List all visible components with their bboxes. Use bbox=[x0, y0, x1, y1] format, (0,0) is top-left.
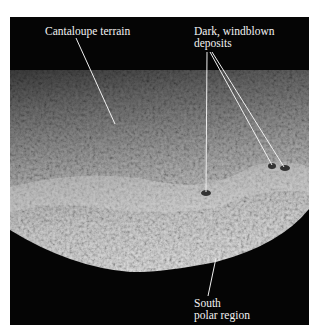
figure-frame: Cantaloupe terrain Dark, windblown depos… bbox=[10, 17, 309, 325]
moon-surface bbox=[10, 70, 309, 280]
label-line: polar region bbox=[194, 309, 250, 321]
label-cantaloupe-terrain: Cantaloupe terrain bbox=[45, 25, 130, 37]
label-line: Dark, windblown bbox=[194, 25, 275, 37]
label-line: South bbox=[194, 297, 250, 309]
label-south-polar-region: South polar region bbox=[194, 297, 250, 321]
label-line: deposits bbox=[194, 37, 275, 49]
label-line: Cantaloupe terrain bbox=[45, 25, 130, 37]
south-polar-leader-line bbox=[208, 258, 216, 296]
triton-photo bbox=[10, 17, 309, 325]
label-dark-windblown-deposits: Dark, windblown deposits bbox=[194, 25, 275, 49]
